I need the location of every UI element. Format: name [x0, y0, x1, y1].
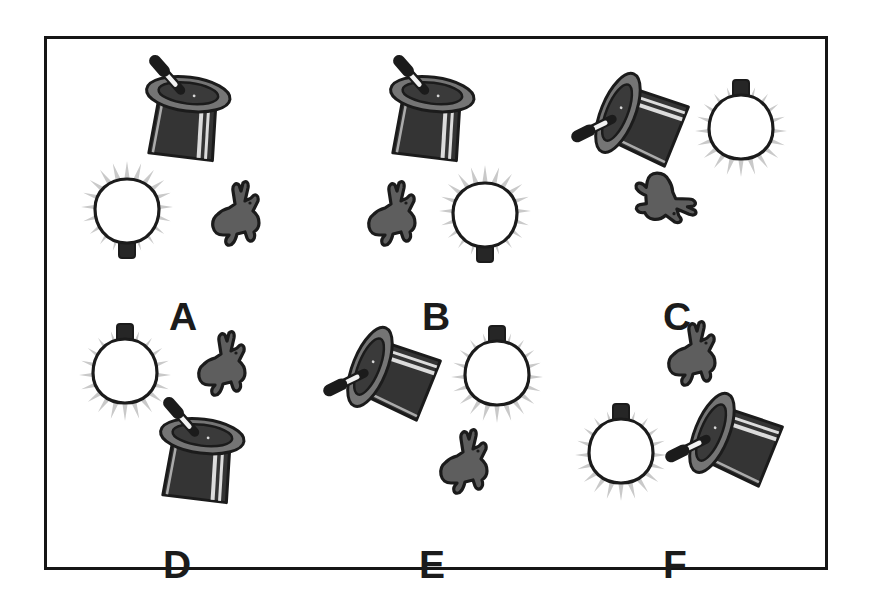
- rabbit-icon: [624, 159, 708, 233]
- panel-label-e: E: [419, 545, 445, 584]
- light-bulb-icon: [693, 75, 789, 179]
- panel-e[interactable]: E: [321, 307, 581, 557]
- rabbit-icon: [203, 177, 265, 251]
- panel-f[interactable]: F: [567, 307, 827, 557]
- light-bulb-icon: [437, 163, 533, 267]
- panel-d[interactable]: D: [63, 307, 323, 557]
- figure-frame: ABCDEF: [44, 36, 828, 570]
- rabbit-icon: [359, 177, 421, 251]
- panel-a[interactable]: A: [63, 51, 323, 301]
- rabbit-icon: [431, 425, 493, 499]
- panel-b[interactable]: B: [321, 51, 581, 301]
- rabbit-icon: [189, 327, 251, 401]
- panel-label-f: F: [663, 545, 687, 584]
- figure-canvas: ABCDEF: [0, 0, 873, 600]
- panel-label-d: D: [163, 545, 191, 584]
- panel-c[interactable]: C: [567, 51, 827, 301]
- light-bulb-icon: [79, 159, 175, 263]
- light-bulb-icon: [449, 321, 545, 425]
